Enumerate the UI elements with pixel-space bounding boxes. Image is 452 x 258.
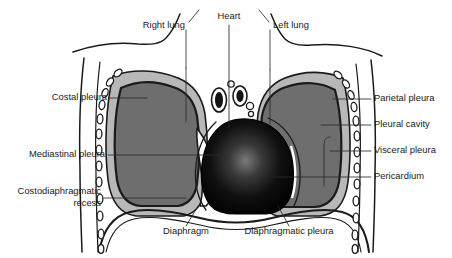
rib-segment (96, 161, 102, 171)
label-diaphragmatic-pleura: Diaphragmatic pleura (244, 225, 334, 236)
vessel-small-lowest (248, 111, 253, 116)
rib-segment (97, 211, 103, 221)
rib-segment (354, 163, 360, 173)
rib-segment (354, 179, 360, 189)
rib-segment (354, 131, 360, 141)
label-diaphragm: Diaphragm (163, 225, 209, 236)
label-pericardium: Pericardium (374, 170, 424, 181)
label-costodiaphragmatic-recess-line1: Costodiaphragmatic (18, 185, 102, 196)
rib-segment (353, 116, 359, 126)
label-right-lung: Right lung (143, 19, 185, 30)
rib-segment (97, 114, 103, 124)
rib-segment (98, 245, 104, 254)
rib-segment (96, 129, 102, 139)
rib-segment (352, 245, 358, 254)
vessel-small-lower (246, 102, 253, 109)
label-heart: Heart (218, 10, 241, 21)
label-parietal-pleura: Parietal pleura (374, 92, 435, 103)
vessel-svc-lumen (215, 92, 223, 108)
rib-segment (353, 213, 359, 223)
label-visceral-pleura: Visceral pleura (374, 144, 437, 155)
rib-segment (354, 147, 360, 157)
label-mediastinal-pleura: Mediastinal pleura (29, 148, 106, 159)
vessel-aorta-lumen (236, 90, 243, 102)
label-pleural-cavity: Pleural cavity (374, 118, 430, 129)
rib-segment (98, 229, 104, 239)
label-costal-pleura: Costal pleura (52, 91, 108, 102)
label-costodiaphragmatic-recess-line2: recess (73, 197, 101, 208)
rib-segment (353, 196, 359, 206)
label-left-lung: Left lung (273, 19, 309, 30)
thorax-coronal-section-diagram: Right lung Heart Left lung Costal pleura… (0, 0, 452, 258)
rib-segment (352, 230, 358, 240)
